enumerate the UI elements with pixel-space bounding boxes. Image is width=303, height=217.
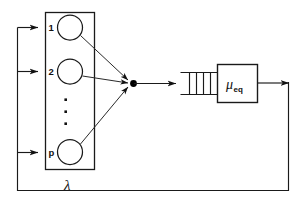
feedback-loop-path bbox=[18, 28, 289, 191]
merge-arrows bbox=[81, 36, 129, 145]
merge-arrow-from-node-p bbox=[81, 87, 129, 144]
server-box bbox=[218, 65, 258, 103]
source-node-1: 1 bbox=[49, 15, 83, 40]
waiting-queue bbox=[181, 73, 219, 95]
source-feed-arrows bbox=[18, 28, 39, 153]
ellipsis-dot-2 bbox=[64, 110, 67, 113]
ellipsis-dot-1 bbox=[64, 98, 67, 101]
source-node-2: 2 bbox=[49, 59, 83, 84]
queueing-network-figure: 1 2 p λ bbox=[0, 0, 303, 217]
mu-subscript: eq bbox=[234, 85, 243, 94]
diagram-canvas: 1 2 p λ bbox=[0, 0, 303, 217]
mu-symbol: μ bbox=[225, 77, 233, 92]
equivalent-server: μeq bbox=[218, 65, 258, 103]
ellipsis-dot-3 bbox=[64, 122, 67, 125]
node-circle-1 bbox=[58, 15, 83, 40]
node-circle-2 bbox=[58, 59, 83, 84]
node-label-2: 2 bbox=[49, 66, 54, 77]
source-node-p: p bbox=[49, 140, 83, 165]
node-label-p: p bbox=[49, 147, 55, 158]
node-circle-p bbox=[58, 140, 83, 165]
node-label-1: 1 bbox=[49, 22, 55, 33]
lambda-label: λ bbox=[63, 177, 71, 193]
merge-arrow-from-node-2 bbox=[83, 76, 129, 83]
vertical-ellipsis bbox=[64, 98, 67, 125]
merge-arrow-from-node-1 bbox=[81, 36, 129, 81]
